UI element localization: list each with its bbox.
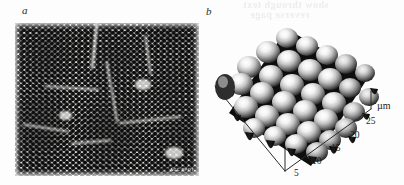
cap-stem xyxy=(233,114,241,121)
surface-cap xyxy=(256,41,280,63)
surface-cap xyxy=(335,54,357,74)
axis-tick-25: 25 xyxy=(366,116,376,126)
surface-cap xyxy=(277,50,301,72)
micrograph-watermark: ACC SPOT xyxy=(170,167,194,172)
surface-cap-highlight xyxy=(218,76,228,88)
axis-tick-10: 10 xyxy=(312,156,322,166)
axis-tick-20: 20 xyxy=(350,130,360,140)
cap-stem xyxy=(245,132,254,140)
cap-stem xyxy=(266,140,275,148)
axis-tick-5: 5 xyxy=(294,168,299,178)
surface-cap xyxy=(276,28,298,48)
panel-a-micrograph: ACC SPOT xyxy=(15,23,199,176)
surface-plot-svg: 5 10 15 20 25 µm xyxy=(199,14,404,185)
edge-cap-left xyxy=(215,74,235,100)
surface-cap xyxy=(316,45,338,65)
surface-cap xyxy=(296,36,318,56)
surface-mesh xyxy=(215,28,379,166)
surface-cap xyxy=(339,78,361,98)
panel-label-a: a xyxy=(22,4,28,16)
micrograph-edge-fade xyxy=(15,23,199,176)
panel-b-surface-plot: 5 10 15 20 25 µm xyxy=(199,14,404,185)
axis-tick-15: 15 xyxy=(331,143,341,153)
figure-container: show through text reverse page a ACC SPO… xyxy=(0,0,404,185)
axis-unit-label: µm xyxy=(377,100,391,111)
surface-cap xyxy=(355,64,375,82)
